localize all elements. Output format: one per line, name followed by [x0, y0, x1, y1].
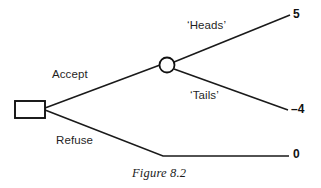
branch-label-accept: Accept — [52, 68, 88, 81]
figure-caption: Figure 8.2 — [132, 166, 186, 180]
chance-node[interactable] — [160, 58, 175, 73]
payoff-value-tails: –4 — [291, 103, 304, 116]
decision-tree-figure: Accept Refuse ‘Heads’ ‘Tails’ 5 –4 0 Fig… — [0, 0, 321, 188]
branch-label-refuse: Refuse — [56, 134, 93, 147]
payoff-value-refuse: 0 — [293, 148, 300, 161]
payoff-value-heads: 5 — [293, 8, 300, 21]
branch-line-refuse[interactable] — [45, 110, 289, 156]
decision-tree-canvas — [0, 0, 321, 188]
branch-label-tails: ‘Tails’ — [190, 89, 219, 102]
branch-label-heads: ‘Heads’ — [187, 19, 226, 32]
decision-node[interactable] — [15, 101, 45, 118]
